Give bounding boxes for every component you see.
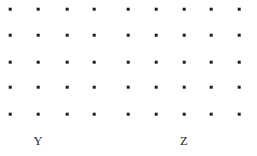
grid-dot bbox=[210, 61, 213, 64]
grid-dot bbox=[210, 113, 213, 116]
grid-dot bbox=[183, 113, 186, 116]
grid-dot bbox=[155, 61, 158, 64]
grid-dot bbox=[183, 34, 186, 37]
grid-dot bbox=[183, 86, 186, 89]
grid-dot bbox=[155, 34, 158, 37]
grid-dot bbox=[127, 86, 130, 89]
grid-dot bbox=[9, 8, 12, 11]
grid-dot bbox=[66, 61, 69, 64]
grid-dot bbox=[127, 113, 130, 116]
grid-dot bbox=[93, 8, 96, 11]
grid-dot bbox=[127, 61, 130, 64]
grid-dot bbox=[238, 8, 241, 11]
grid-dot bbox=[210, 86, 213, 89]
axis-label-z: Z bbox=[180, 135, 188, 148]
dot-grid-figure: YZ bbox=[0, 0, 257, 156]
grid-dot bbox=[238, 34, 241, 37]
grid-dot bbox=[37, 113, 40, 116]
grid-dot bbox=[93, 61, 96, 64]
grid-dot bbox=[37, 61, 40, 64]
grid-dot bbox=[93, 86, 96, 89]
grid-dot bbox=[37, 34, 40, 37]
grid-dot bbox=[9, 86, 12, 89]
grid-dot bbox=[9, 34, 12, 37]
grid-dot bbox=[93, 113, 96, 116]
grid-dot bbox=[210, 8, 213, 11]
grid-dot bbox=[37, 8, 40, 11]
grid-dot bbox=[127, 8, 130, 11]
grid-dot bbox=[210, 34, 213, 37]
grid-dot bbox=[66, 86, 69, 89]
grid-dot bbox=[93, 34, 96, 37]
grid-dot bbox=[155, 8, 158, 11]
grid-dot bbox=[238, 61, 241, 64]
grid-dot bbox=[183, 61, 186, 64]
grid-dot bbox=[9, 61, 12, 64]
grid-dot bbox=[37, 86, 40, 89]
grid-dot bbox=[9, 113, 12, 116]
axis-label-y: Y bbox=[33, 135, 42, 148]
grid-dot bbox=[66, 34, 69, 37]
grid-dot bbox=[183, 8, 186, 11]
grid-dot bbox=[155, 86, 158, 89]
grid-dot bbox=[127, 34, 130, 37]
grid-dot bbox=[238, 86, 241, 89]
grid-dot bbox=[238, 113, 241, 116]
grid-dot bbox=[66, 113, 69, 116]
grid-dot bbox=[155, 113, 158, 116]
grid-dot bbox=[66, 8, 69, 11]
